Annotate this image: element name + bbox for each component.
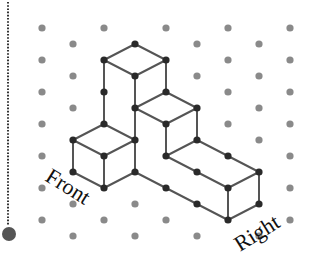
grid-dot — [193, 232, 200, 239]
solid-edge — [104, 60, 135, 76]
solid-edge — [135, 60, 166, 76]
grid-dot — [255, 104, 262, 111]
solid-edge — [73, 124, 104, 140]
grid-dot — [38, 152, 45, 159]
vertex-dot — [131, 40, 138, 47]
vertex-dot — [100, 120, 107, 127]
solid-edge — [166, 140, 197, 156]
grid-dot — [69, 40, 76, 47]
vertex-dot — [224, 184, 231, 191]
vertex-dot — [69, 136, 76, 143]
vertex-dot — [131, 168, 138, 175]
grid-dot — [193, 72, 200, 79]
grid-dot — [100, 24, 107, 31]
right-label: Right — [229, 209, 284, 256]
vertex-dot — [255, 200, 262, 207]
vertex-dot — [193, 104, 200, 111]
vertex-dot — [193, 136, 200, 143]
vertical-guide — [2, 2, 16, 241]
solid-edge — [166, 92, 197, 108]
vertex-dot — [255, 168, 262, 175]
grid-dot — [286, 184, 293, 191]
vertex-dot — [100, 152, 107, 159]
vertex-dot — [193, 200, 200, 207]
grid-dot — [224, 24, 231, 31]
grid-dot — [286, 88, 293, 95]
grid-dot — [100, 216, 107, 223]
solid-edge — [228, 204, 259, 220]
grid-dot — [193, 40, 200, 47]
grid-dot — [255, 40, 262, 47]
front-label: Front — [41, 163, 95, 209]
grid-dot — [286, 216, 293, 223]
solid-edge — [166, 108, 197, 124]
grid-dot — [38, 56, 45, 63]
grid-dot — [224, 88, 231, 95]
grid-dot — [38, 216, 45, 223]
grid-dot — [69, 104, 76, 111]
vertex-dot — [162, 56, 169, 63]
grid-dot — [255, 136, 262, 143]
grid-dot — [38, 88, 45, 95]
grid-dot — [286, 56, 293, 63]
solid-edge — [135, 172, 228, 220]
solid-edge — [135, 44, 166, 60]
grid-dot — [286, 120, 293, 127]
grid-dot — [162, 216, 169, 223]
vertex-dot — [193, 168, 200, 175]
solid-edges — [73, 44, 259, 220]
guide-ball — [2, 227, 16, 241]
grid-dot — [286, 24, 293, 31]
grid-dot — [38, 120, 45, 127]
isometric-diagram: Front Right — [0, 0, 315, 269]
solid-edge — [135, 108, 166, 124]
solid-edge — [73, 140, 104, 156]
vertex-dot — [162, 88, 169, 95]
grid-dot — [69, 72, 76, 79]
solid-edge — [228, 172, 259, 188]
vertex-dot — [162, 152, 169, 159]
grid-dot — [131, 232, 138, 239]
vertex-dot — [131, 104, 138, 111]
vertex-dot — [162, 184, 169, 191]
solid-edge — [104, 140, 135, 156]
vertex-dot — [100, 88, 107, 95]
vertex-dot — [131, 72, 138, 79]
grid-dot — [69, 232, 76, 239]
grid-dot — [286, 152, 293, 159]
grid-dot — [224, 56, 231, 63]
vertex-dot — [224, 152, 231, 159]
solid-edge — [104, 172, 135, 188]
grid-dot — [224, 120, 231, 127]
vertex-dot — [100, 184, 107, 191]
grid-dot — [131, 200, 138, 207]
grid-dot — [38, 24, 45, 31]
solid-edge — [104, 44, 135, 60]
grid-dot — [255, 72, 262, 79]
solid-edge — [135, 92, 166, 108]
grid-dot — [162, 24, 169, 31]
vertex-dot — [224, 216, 231, 223]
solid-edge — [104, 124, 135, 140]
vertex-dot — [131, 136, 138, 143]
vertex-dot — [162, 120, 169, 127]
vertex-dot — [100, 56, 107, 63]
